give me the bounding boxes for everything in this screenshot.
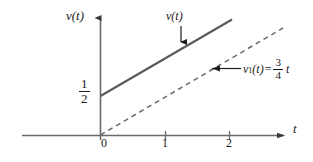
- v1-argument: (t): [252, 63, 263, 75]
- fraction-denominator: 2: [79, 91, 90, 106]
- curve-label-v1: v1(t)= 3 4 t: [243, 57, 289, 81]
- v1-equals-sign: =: [264, 63, 273, 75]
- x-tick-label-1: 1: [162, 137, 168, 149]
- fraction-one-half: 1 2: [79, 77, 90, 105]
- v1-fraction-numerator: 3: [273, 57, 283, 69]
- v1-variable: t: [286, 63, 289, 75]
- x-tick-label-0: 0: [101, 137, 107, 149]
- v1-subscript: 1: [248, 67, 252, 75]
- curve-v: [101, 20, 233, 97]
- y-intercept-label: 1 2: [79, 77, 90, 105]
- curve-label-v: v(t): [166, 10, 183, 22]
- fraction-three-quarters: 3 4: [273, 57, 283, 81]
- x-axis-label: t: [293, 122, 297, 135]
- x-tick-label-2: 2: [226, 137, 232, 149]
- figure-canvas: v(t) t 0 1 2 1 2 v(t) v1(t)= 3 4 t: [0, 0, 313, 162]
- v1-fraction-denominator: 4: [273, 69, 283, 82]
- y-axis-label: v(t): [66, 9, 84, 22]
- fraction-numerator: 1: [79, 77, 90, 91]
